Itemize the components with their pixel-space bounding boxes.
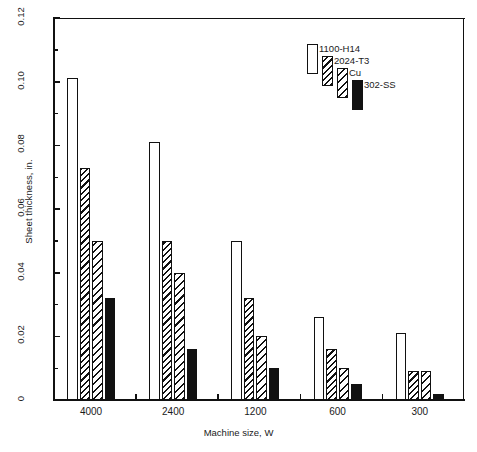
x-axis-title: Machine size, W [0, 427, 477, 438]
legend-swatch-302-ss [352, 80, 363, 110]
x-tick-label: 600 [308, 406, 368, 417]
bar [421, 371, 432, 400]
x-tick [382, 394, 384, 400]
bar [314, 317, 325, 400]
y-tick-minor [53, 368, 58, 369]
bar-chart-figure: Sheet thickness, in. Machine size, W 00.… [0, 0, 477, 452]
y-tick-label: 0.12 [15, 0, 26, 34]
legend-swatch-cu [337, 68, 348, 98]
y-tick-label: 0.02 [15, 318, 26, 352]
bar [67, 78, 78, 400]
bar [408, 371, 419, 400]
legend-label: Cu [349, 67, 361, 78]
legend-swatch-1100-h14 [307, 44, 318, 74]
bar [269, 368, 280, 400]
x-tick [217, 394, 219, 400]
x-tick-label: 2400 [143, 406, 203, 417]
bar [80, 168, 91, 400]
y-tick-label: 0.08 [15, 127, 26, 161]
bar [162, 241, 173, 400]
legend-swatch-2024-t3 [322, 56, 333, 86]
bar [339, 368, 350, 400]
axis-top [53, 18, 465, 19]
y-tick-major [53, 399, 60, 401]
bar [244, 298, 255, 400]
y-tick-minor [53, 49, 58, 50]
x-tick-label: 300 [390, 406, 450, 417]
bar [92, 241, 103, 400]
y-tick-minor [53, 240, 58, 241]
legend-label: 2024-T3 [334, 55, 369, 66]
bar [149, 142, 160, 400]
y-tick-minor [53, 113, 58, 114]
bar [105, 298, 116, 400]
y-tick-major [53, 81, 60, 83]
y-tick-minor [53, 177, 58, 178]
x-tick-label: 1200 [225, 406, 285, 417]
bar [433, 394, 444, 400]
bar [396, 333, 407, 400]
y-tick-major [53, 272, 60, 274]
x-tick [300, 394, 302, 400]
y-tick-major [53, 336, 60, 338]
bar [231, 241, 242, 400]
bar [187, 349, 198, 400]
x-tick-label: 4000 [61, 406, 121, 417]
bar [174, 273, 185, 400]
y-tick-label: 0 [15, 382, 26, 416]
y-tick-label: 0.04 [15, 254, 26, 288]
bar [326, 349, 337, 400]
legend-label: 1100-H14 [319, 43, 360, 54]
y-tick-major [53, 145, 60, 147]
y-tick-major [53, 17, 60, 19]
y-tick-label: 0.06 [15, 191, 26, 225]
legend-label: 302-SS [364, 79, 396, 90]
y-tick-major [53, 208, 60, 210]
y-tick-minor [53, 304, 58, 305]
axis-right [463, 18, 464, 401]
bar [351, 384, 362, 400]
bar [256, 336, 267, 400]
y-tick-label: 0.10 [15, 63, 26, 97]
x-tick [135, 394, 137, 400]
